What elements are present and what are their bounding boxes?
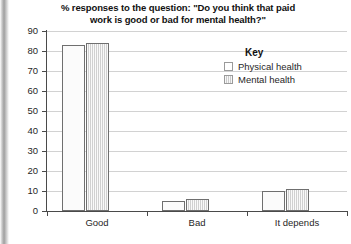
x-axis-label-good: Good	[47, 217, 147, 228]
x-axis-line	[46, 211, 347, 212]
gridline	[47, 31, 347, 32]
legend-item-physical-health: Physical health	[224, 61, 332, 72]
bar-physical-health-it-depends	[262, 191, 285, 211]
bar-mental-health-good	[86, 43, 109, 211]
y-axis-tick-label: 20	[8, 165, 38, 176]
x-axis-tick	[347, 211, 348, 216]
y-axis-tick-label: 10	[8, 185, 38, 196]
x-axis-label-bad: Bad	[147, 217, 247, 228]
x-axis-tick	[147, 211, 148, 216]
bar-physical-health-good	[62, 45, 85, 211]
legend-item-label: Mental health	[238, 74, 295, 85]
x-axis-label-it-depends: It depends	[247, 217, 347, 228]
legend-item-mental-health: Mental health	[224, 74, 332, 85]
chart-title-line-2: work is good or bad for mental health?"	[34, 14, 322, 26]
y-axis-tick-label: 0	[8, 205, 38, 216]
legend-swatch-icon	[224, 62, 233, 71]
y-axis-labels: 0102030405060708090	[4, 0, 38, 244]
legend-item-label: Physical health	[238, 61, 302, 72]
y-axis-tick-label: 40	[8, 125, 38, 136]
chart-title: % responses to the question: "Do you thi…	[34, 2, 322, 27]
bar-mental-health-bad	[186, 199, 209, 211]
x-axis-tick	[247, 211, 248, 216]
legend-title: Key	[245, 47, 332, 58]
legend-swatch-icon	[224, 75, 233, 84]
y-axis-tick-label: 90	[8, 25, 38, 36]
y-axis-tick-label: 50	[8, 105, 38, 116]
x-axis-tick	[47, 211, 48, 216]
bar-mental-health-it-depends	[286, 189, 309, 211]
bar-chart: % responses to the question: "Do you thi…	[0, 0, 351, 244]
legend-entries: Physical healthMental health	[224, 61, 332, 85]
y-axis-tick-label: 80	[8, 45, 38, 56]
bar-physical-health-bad	[162, 201, 185, 211]
chart-legend: Key Physical healthMental health	[224, 47, 332, 87]
y-axis-tick-label: 70	[8, 65, 38, 76]
y-axis-tick-label: 60	[8, 85, 38, 96]
chart-title-line-1: % responses to the question: "Do you thi…	[34, 2, 322, 14]
y-axis-tick-label: 30	[8, 145, 38, 156]
